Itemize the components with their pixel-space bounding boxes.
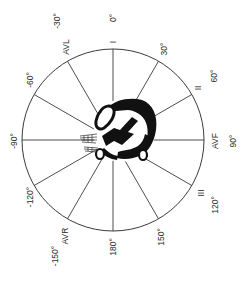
vessel-stub-right: [139, 150, 147, 160]
degree-label-m30: -30°: [52, 13, 62, 29]
lead-label-avr: AVR: [60, 228, 70, 245]
hexaxial-diagram: I 0° 30° II 60° AVF 90° III 120° 150° 18…: [0, 0, 243, 286]
degree-label-m60: -60°: [25, 72, 35, 88]
lead-label-iii: III: [196, 189, 206, 196]
degree-label-0: 0°: [108, 14, 118, 22]
degree-label-60: 60°: [209, 70, 219, 83]
degree-label-30: 30°: [159, 43, 169, 56]
degree-label-180: 180°: [108, 238, 118, 256]
degree-label-120: 120°: [210, 196, 220, 214]
degree-label-m150: -150°: [50, 246, 60, 266]
degree-label-m120: -120°: [25, 187, 35, 207]
lead-label-avl: AVL: [61, 39, 71, 55]
lead-label-avf: AVF: [210, 133, 220, 149]
degree-label-m90: -90°: [9, 133, 19, 149]
lead-label-ii: II: [193, 86, 203, 91]
vessel-stub-left: [96, 149, 104, 159]
lead-label-i: I: [108, 41, 118, 43]
degree-label-150: 150°: [156, 228, 166, 246]
degree-label-90: 90°: [228, 135, 238, 148]
